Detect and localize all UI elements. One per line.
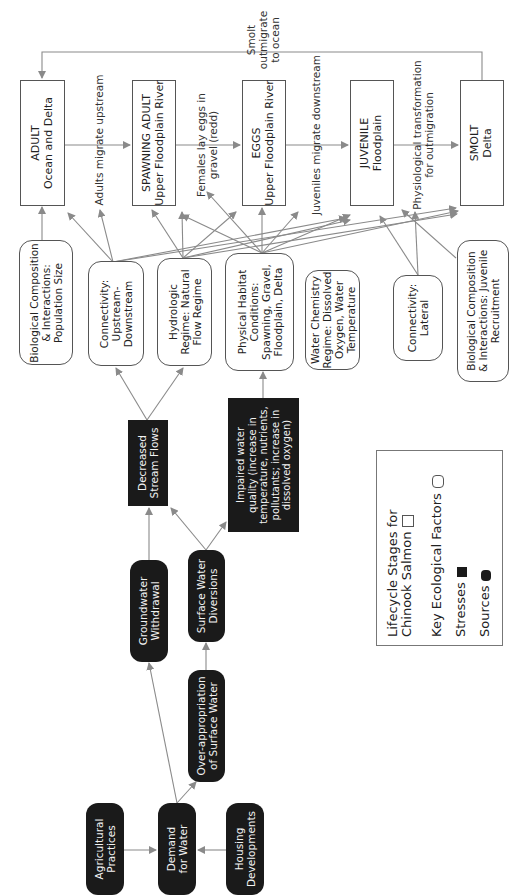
factor-text: Population Size [52,243,64,363]
stress-text: Impaired water [235,406,247,524]
source-text: Withdrawal [149,577,161,646]
source-text: Diversions [207,559,219,633]
factor-text: Connectivity: [406,284,418,353]
lifecycle-swatch-icon [402,515,414,527]
legend-label: Sources [477,586,492,637]
feedback-text: to ocean [269,11,281,69]
transition-juveniles-migrate: Juveniles migrate downstream [303,60,329,210]
legend-label: Stresses [453,582,468,637]
source-agricultural-practices: AgriculturalPractices [86,803,124,895]
stage-subtitle: Upper Floodplain River [264,80,277,205]
factor-text: Spawning, Gravel, [260,264,272,360]
stress-text: Stream Flows [148,428,160,499]
legend-label: Lifecycle Stages for [386,509,400,637]
stress-decreased-stream-flows: DecreasedStream Flows [128,420,168,506]
transition-text: gravel (redd) [207,93,219,197]
factor-biological-population: Biological Composition& Interactions:Pop… [19,240,73,365]
source-text: Groundwater [137,577,149,646]
factor-text: Water Chemistry [308,271,320,368]
legend-label: Chinook Salmon [399,532,414,637]
source-demand-for-water: Demandfor Water [158,803,196,895]
factor-text: Lateral [418,284,430,353]
factor-text: & Interactions: [40,243,52,363]
lifecycle-spawning-adult: SPAWNING ADULTUpper Floodplain River [132,80,176,206]
factor-text: Floodplain, Delta [272,264,284,360]
factor-text: Biological Composition [465,250,477,372]
source-groundwater-withdrawal: GroundwaterWithdrawal [130,560,168,662]
stage-subtitle: Delta [482,125,495,161]
lifecycle-eggs: EGGSUpper Floodplain River [242,80,286,206]
legend-factors: Key Ecological Factors [430,475,444,637]
legend-stresses: Stresses [454,567,468,637]
source-text: for Water [177,825,189,874]
source-text: of Surface Water [207,676,219,775]
factor-hydrologic-regime: HydrologicRegime: NaturalFlow Regime [157,258,212,366]
source-over-appropriation: Over-appropriationof Surface Water [188,670,225,782]
factor-text: Regime: Natural [178,269,190,354]
factor-text: Physical Habitat [235,264,247,360]
factor-text: Downstream [122,279,134,348]
factor-connectivity-lateral: Connectivity:Lateral [393,275,443,361]
feedback-text: outmigrate [257,11,269,69]
source-text: Over-appropriation [194,676,206,775]
source-surface-water-diversions: Surface WaterDiversions [188,550,225,642]
feedback-smolt-outmigrate: Smoltoutmigrateto ocean [243,4,283,76]
factor-connectivity-upstream: Connectivity:Upstream-Downstream [88,261,144,366]
transition-text: for outmigration [423,60,435,209]
factor-text: Conditions: [247,264,259,360]
source-swatch-icon [481,570,491,581]
stress-text: temperature, nutrients, [258,406,270,524]
transition-adults-migrate: Adults migrate upstream [86,75,112,205]
source-housing-developments: HousingDevelopments [226,803,264,895]
source-text: Practices [105,819,117,880]
source-text: Agricultural [93,819,105,880]
legend-lifecycle: Lifecycle Stages for Chinook Salmon [386,509,415,637]
feedback-text: Smolt [245,11,257,69]
lifecycle-juvenile: JUVENILEFloodplain [350,80,394,206]
transition-physiological: Physiological transformationfor outmigra… [405,65,441,205]
factor-text: Connectivity: [98,279,110,348]
source-text: Demand [165,825,177,874]
factor-text: Regime: Dissolved [320,271,332,368]
transition-lay-eggs: Females lay eggs ingravel (redd) [190,90,224,200]
source-text: Developments [245,811,257,887]
lifecycle-smolt: SMOLTDelta [460,80,504,206]
stress-text: pollutants; increase in [269,406,281,524]
legend-label: Key Ecological Factors [429,493,444,637]
factor-text: Biological Composition [28,243,40,363]
factor-text: Upstream- [110,279,122,348]
factor-text: Recruitment [489,250,501,372]
transition-text: Females lay eggs in [195,93,207,197]
factor-text: & Interactions: Juvenile [477,250,489,372]
factor-water-chemistry: Water ChemistryRegime: DissolvedOxygen, … [305,270,360,370]
lifecycle-adult: ADULTOcean and Delta [20,80,65,206]
stage-title: SMOLT [469,125,482,161]
stage-subtitle: Floodplain [372,115,385,172]
stress-text: quality (increase in [246,406,258,524]
source-text: Housing [233,811,245,887]
stress-impaired-water-quality: Impaired waterquality (increase intemper… [228,398,299,532]
stage-title: JUVENILE [359,115,372,172]
factor-swatch-icon [432,475,444,488]
source-text: Surface Water [194,559,206,633]
factor-text: Flow Regime [191,269,203,354]
stress-text: Decreased [136,428,148,499]
stage-title: EGGS [251,80,264,205]
stage-title: ADULT [30,97,43,189]
transition-text: Adults migrate upstream [93,75,105,206]
factor-text: Hydrologic [166,269,178,354]
factor-physical-habitat: Physical HabitatConditions:Spawning, Gra… [225,253,294,371]
factor-text: Oxygen, Water [333,271,345,368]
legend-sources: Sources [478,570,492,637]
transition-text: Juveniles migrate downstream [310,55,322,215]
legend: Lifecycle Stages for Chinook Salmon Key … [376,450,503,646]
stage-title: SPAWNING ADULT [141,80,154,205]
transition-text: Physiological transformation [411,60,423,209]
stress-swatch-icon [457,567,467,577]
factor-text: Temperature [345,271,357,368]
stress-text: dissolved oxygen) [281,406,293,524]
stage-subtitle: Upper Floodplain River [154,80,167,205]
stage-subtitle: Ocean and Delta [43,97,56,189]
factor-biological-juvenile: Biological Composition& Interactions: Ju… [457,240,509,382]
